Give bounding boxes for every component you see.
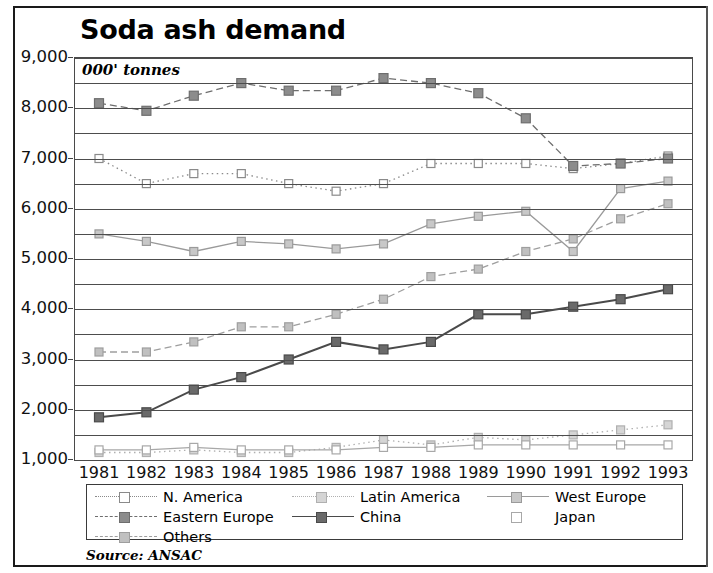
legend-marker [316, 492, 327, 503]
legend-label: China [360, 509, 401, 525]
data-point-marker [332, 187, 340, 195]
data-point-marker [190, 170, 198, 178]
legend-item-eastern-europe[interactable]: Eastern Europe [95, 509, 274, 525]
gridline [75, 360, 692, 361]
x-tick-label: 1987 [358, 463, 410, 482]
data-point-marker [617, 441, 625, 449]
y-tick-mark [68, 208, 73, 209]
data-point-marker [285, 240, 293, 248]
data-point-marker [332, 337, 341, 346]
gridline [75, 460, 692, 461]
legend-marker [316, 512, 327, 523]
data-point-marker [474, 310, 483, 319]
legend-swatch [487, 490, 549, 504]
gridline [75, 83, 692, 84]
gridline [75, 309, 692, 310]
data-point-marker [426, 337, 435, 346]
data-point-marker [569, 248, 577, 256]
y-tick-mark [68, 459, 73, 460]
y-tick-label: 3,000 [4, 349, 68, 368]
legend-item-japan[interactable]: Japan [487, 509, 595, 525]
data-point-marker [664, 285, 673, 294]
data-point-marker [617, 215, 625, 223]
data-point-marker [237, 170, 245, 178]
legend-label: Japan [555, 509, 595, 525]
legend-item-n-america[interactable]: N. America [95, 489, 243, 505]
data-point-marker [427, 273, 435, 281]
gridline [75, 209, 692, 210]
data-point-marker [474, 160, 482, 168]
data-point-marker [285, 323, 293, 331]
gridline [75, 133, 692, 134]
source-note: Source: ANSAC [86, 547, 202, 563]
x-tick-label: 1986 [310, 463, 362, 482]
data-point-marker [237, 237, 245, 245]
data-point-marker [190, 338, 198, 346]
x-tick-label: 1988 [405, 463, 457, 482]
units-label: 000' tonnes [82, 61, 180, 79]
data-point-marker [379, 74, 388, 83]
y-tick-mark [68, 57, 73, 58]
series-line [99, 204, 668, 352]
legend-item-latin-america[interactable]: Latin America [292, 489, 460, 505]
data-point-marker [522, 441, 530, 449]
gridline [75, 410, 692, 411]
data-point-marker [427, 220, 435, 228]
y-tick-label: 5,000 [4, 248, 68, 267]
data-point-marker [474, 89, 483, 98]
data-point-marker [427, 160, 435, 168]
legend-swatch [292, 510, 354, 524]
gridline [75, 234, 692, 235]
chart-legend: N. AmericaLatin AmericaWest EuropeEaster… [86, 484, 683, 540]
plot-area [74, 57, 693, 461]
legend-swatch [95, 510, 157, 524]
data-point-marker [332, 310, 340, 318]
legend-item-china[interactable]: China [292, 509, 401, 525]
data-point-marker [237, 373, 246, 382]
y-tick-label: 8,000 [4, 97, 68, 116]
legend-label: N. America [163, 489, 243, 505]
data-point-marker [521, 310, 530, 319]
data-point-marker [569, 235, 577, 243]
y-tick-mark [68, 258, 73, 259]
data-point-marker [616, 295, 625, 304]
x-tick-label: 1982 [120, 463, 172, 482]
data-point-marker [522, 160, 530, 168]
gridline [75, 435, 692, 436]
data-point-marker [285, 446, 293, 454]
data-point-marker [474, 265, 482, 273]
data-point-marker [142, 348, 150, 356]
legend-marker [511, 512, 522, 523]
gridline [75, 259, 692, 260]
y-tick-label: 9,000 [4, 47, 68, 66]
x-tick-label: 1989 [452, 463, 504, 482]
legend-item-others[interactable]: Others [95, 529, 212, 545]
x-tick-label: 1990 [500, 463, 552, 482]
data-point-marker [474, 441, 482, 449]
legend-label: West Europe [555, 489, 646, 505]
x-tick-label: 1981 [73, 463, 125, 482]
data-point-marker [569, 162, 578, 171]
data-point-marker [95, 413, 104, 422]
legend-marker [511, 492, 522, 503]
x-tick-label: 1991 [547, 463, 599, 482]
legend-marker [119, 492, 130, 503]
data-point-marker [142, 446, 150, 454]
legend-item-west-europe[interactable]: West Europe [487, 489, 646, 505]
data-point-marker [95, 446, 103, 454]
y-tick-label: 7,000 [4, 148, 68, 167]
legend-marker [119, 532, 130, 543]
data-point-marker [521, 114, 530, 123]
x-tick-label: 1984 [215, 463, 267, 482]
data-point-marker [189, 91, 198, 100]
y-tick-label: 4,000 [4, 298, 68, 317]
y-tick-label: 1,000 [4, 449, 68, 468]
data-point-marker [189, 385, 198, 394]
data-point-marker [190, 443, 198, 451]
data-point-marker [617, 185, 625, 193]
legend-label: Latin America [360, 489, 460, 505]
data-point-marker [332, 86, 341, 95]
data-point-marker [474, 212, 482, 220]
data-point-marker [617, 426, 625, 434]
y-tick-mark [68, 107, 73, 108]
